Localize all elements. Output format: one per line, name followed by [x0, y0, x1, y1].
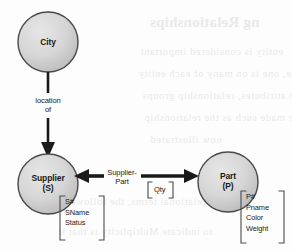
entity-label-supplier: Supplier (S) — [13, 173, 83, 193]
attribute-list-supplier: S# SName Status — [65, 197, 89, 229]
relationship-label-line1: Supplier- — [107, 168, 137, 177]
attribute-bracket-right-qty — [169, 182, 173, 198]
attribute-item: Weight — [246, 224, 269, 235]
relationship-label-line2: of — [45, 105, 51, 114]
entity-label-city: City — [18, 37, 78, 47]
attribute-item: Pname — [246, 203, 269, 214]
attribute-item: S# — [65, 197, 89, 208]
entity-name-city: City — [40, 37, 56, 47]
relationship-label-line2: Part — [115, 177, 129, 186]
attribute-item: Color — [246, 213, 269, 224]
attribute-bracket-left-qty — [148, 182, 152, 198]
attribute-bracket-right-supplier — [99, 196, 104, 240]
attribute-bracket-right-part — [279, 191, 284, 243]
entity-abbrev-supplier: (S) — [42, 183, 53, 193]
attribute-list-part: P# Pname Color Weight — [246, 192, 269, 234]
er-diagram: ng Relationships entity is considered im… — [0, 0, 292, 250]
relationship-label-line1: location — [35, 96, 60, 105]
arrowhead-right-icon — [184, 169, 199, 183]
entity-name-supplier: Supplier — [31, 173, 64, 183]
attribute-item: SName — [65, 208, 89, 219]
attribute-item-qty: Qty — [154, 185, 166, 194]
attribute-item: P# — [246, 192, 269, 203]
entity-abbrev-part: (P) — [222, 181, 233, 191]
entity-name-part: Part — [220, 171, 236, 181]
entity-label-part: Part (P) — [198, 171, 258, 191]
relationship-label-location-of: location of — [18, 96, 78, 115]
relationship-label-supplier-part: Supplier- Part — [98, 168, 146, 187]
attribute-item: Status — [65, 218, 89, 229]
